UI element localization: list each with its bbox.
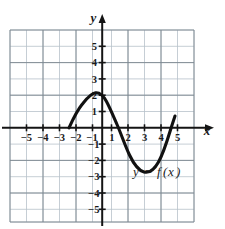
curve-label-x: x <box>167 164 174 179</box>
y-tick-label: 3 <box>92 74 97 85</box>
x-tick-label: 2 <box>125 132 130 143</box>
y-tick-label: −4 <box>88 188 100 199</box>
x-axis-label: x <box>203 123 211 138</box>
coordinate-plane-svg: −5 −4 −3 −2 −1 1 2 3 4 5 5 4 3 2 1 −1 −2… <box>0 0 225 229</box>
y-axis-label: y <box>89 10 97 25</box>
x-tick-label: 4 <box>158 132 164 143</box>
y-tick-label: 5 <box>92 41 97 52</box>
curve-label-equals: = <box>144 164 153 179</box>
curve-label-paren-close: ) <box>175 164 180 179</box>
x-tick-label: −3 <box>54 132 65 143</box>
x-tick-label: −5 <box>21 132 32 143</box>
y-tick-label: −5 <box>88 204 99 215</box>
x-tick-label: −2 <box>70 132 81 143</box>
y-tick-label: −1 <box>88 139 99 150</box>
y-tick-label: 1 <box>92 106 97 117</box>
y-tick-label: 4 <box>92 57 98 68</box>
x-tick-label: 3 <box>142 132 147 143</box>
y-tick-label: −2 <box>88 155 99 166</box>
graph-figure: −5 −4 −3 −2 −1 1 2 3 4 5 5 4 3 2 1 −1 −2… <box>0 0 225 229</box>
x-tick-label: −4 <box>37 132 49 143</box>
x-tick-label: 5 <box>175 132 180 143</box>
y-tick-label: −3 <box>88 171 99 182</box>
curve-label-y: y <box>131 164 139 179</box>
x-tick-label: 1 <box>109 132 114 143</box>
